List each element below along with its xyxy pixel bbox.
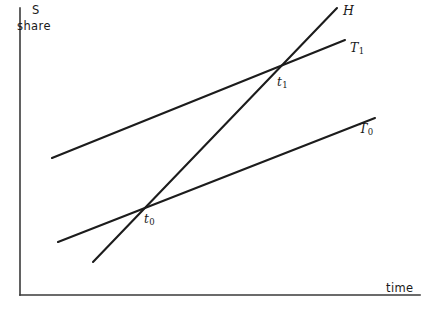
x-axis-title: time xyxy=(386,283,414,295)
annotation-label-t0: t0 xyxy=(144,213,155,227)
series-label-T1-base: T xyxy=(350,40,358,55)
y-axis-title-line1: S xyxy=(32,5,40,17)
series-label-T1-subscript: 1 xyxy=(359,46,364,56)
series-line-T1 xyxy=(52,40,345,158)
y-axis-title-line2: share xyxy=(17,21,51,33)
series-label-H: H xyxy=(343,5,354,18)
annotation-label-t1: t1 xyxy=(277,76,288,90)
annotation-label-t1-subscript: 1 xyxy=(282,80,287,90)
series-label-T0-base: T xyxy=(359,121,367,136)
series-line-H xyxy=(93,8,337,262)
annotation-label-t0-subscript: 0 xyxy=(149,217,154,227)
series-label-T0: T0 xyxy=(359,123,373,137)
series-label-T0-subscript: 0 xyxy=(368,127,373,137)
series-label-T1: T1 xyxy=(350,42,364,56)
chart-figure: S share time H T1 T0 t1 t0 xyxy=(0,0,423,315)
